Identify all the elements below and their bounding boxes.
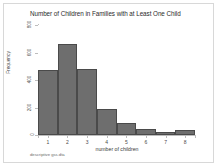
x-tick [166, 135, 167, 138]
x-tick [185, 135, 186, 138]
x-tick [87, 135, 88, 138]
x-axis-endcap [38, 135, 39, 138]
chart-title: Number of Children in Families with at L… [30, 10, 210, 18]
plot-area [38, 25, 195, 135]
x-tick-label: 7 [160, 139, 172, 145]
histogram-bar [77, 69, 97, 135]
y-tick-label: 400 [0, 77, 34, 82]
x-tick-label: 8 [179, 139, 191, 145]
y-tick-label: 200 [0, 105, 34, 110]
x-tick-label: 5 [120, 139, 132, 145]
x-axis-line [38, 135, 196, 136]
x-tick [126, 135, 127, 138]
y-tick-label: 800 [0, 22, 34, 27]
histogram-figure: Number of Children in Families with at L… [0, 0, 217, 166]
x-tick-label: 1 [42, 139, 54, 145]
x-axis-endcap [195, 135, 196, 138]
histogram-bar [97, 109, 117, 135]
figure-caption: descriptive gss.dta [30, 152, 65, 157]
histogram-bar [38, 70, 58, 135]
x-tick [48, 135, 49, 138]
x-tick [146, 135, 147, 138]
x-tick-label: 2 [61, 139, 73, 145]
y-tick-label: 0 [0, 132, 34, 137]
y-tick-label: 600 [0, 50, 34, 55]
histogram-bar [117, 123, 137, 135]
x-tick-label: 4 [101, 139, 113, 145]
histogram-bar [58, 44, 78, 135]
x-tick [107, 135, 108, 138]
x-tick-label: 6 [140, 139, 152, 145]
x-tick [67, 135, 68, 138]
x-tick-label: 3 [81, 139, 93, 145]
